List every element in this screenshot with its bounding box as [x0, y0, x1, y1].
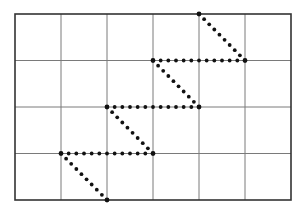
path-vertex-dot	[105, 198, 110, 203]
path-dot	[113, 105, 117, 109]
path-dot	[141, 141, 145, 145]
path-dot	[174, 59, 178, 63]
path-vertex-dot	[197, 12, 202, 17]
path-dot	[182, 90, 186, 94]
path-dot	[120, 152, 124, 156]
path-dot	[113, 152, 117, 156]
path-dot	[166, 59, 170, 63]
path-dot	[166, 105, 170, 109]
path-dot	[197, 59, 201, 63]
path-dot	[115, 115, 119, 119]
path-dot	[90, 152, 94, 156]
path-dot	[189, 105, 193, 109]
path-dot	[233, 48, 237, 52]
path-dot	[174, 105, 178, 109]
path-dot	[205, 59, 209, 63]
path-dot	[67, 152, 71, 156]
path-dot	[212, 28, 216, 32]
path-dot	[218, 33, 222, 37]
path-dot	[131, 131, 135, 135]
path-dot	[228, 59, 232, 63]
path-dot	[136, 136, 140, 140]
path-dot	[220, 59, 224, 63]
path-dot	[182, 105, 186, 109]
path-vertex-dot	[197, 105, 202, 110]
path-dot	[182, 59, 186, 63]
path-dot	[189, 59, 193, 63]
path-dot	[128, 152, 132, 156]
path-dot	[143, 152, 147, 156]
grid-diagram	[0, 0, 303, 209]
path-vertex-dot	[243, 58, 248, 63]
path-dot	[143, 105, 147, 109]
path-dot	[136, 152, 140, 156]
path-dot	[235, 59, 239, 63]
diagram-canvas	[0, 0, 303, 209]
path-dot	[159, 59, 163, 63]
path-dot	[74, 167, 78, 171]
path-dot	[202, 17, 206, 21]
path-dot	[69, 162, 73, 166]
path-dot	[80, 172, 84, 176]
path-dot	[64, 157, 68, 161]
path-dot	[207, 22, 211, 26]
path-dot	[146, 146, 150, 150]
path-vertex-dot	[151, 58, 156, 63]
path-dot	[110, 110, 114, 114]
path-dot	[85, 177, 89, 181]
path-dot	[74, 152, 78, 156]
path-dot	[82, 152, 86, 156]
path-dot	[97, 152, 101, 156]
path-dot	[177, 84, 181, 88]
path-dot	[136, 105, 140, 109]
path-dot	[161, 69, 165, 73]
path-dot	[120, 105, 124, 109]
path-dot	[100, 193, 104, 197]
path-dot	[187, 95, 191, 99]
path-dot	[172, 79, 176, 83]
path-dot	[128, 105, 132, 109]
path-dot	[156, 64, 160, 68]
path-dot	[105, 152, 109, 156]
path-dot	[228, 43, 232, 47]
path-dot	[212, 59, 216, 63]
path-dot	[151, 105, 155, 109]
path-vertex-dot	[59, 151, 64, 156]
path-dot	[95, 188, 99, 192]
path-dot	[120, 121, 124, 125]
path-dot	[126, 126, 130, 130]
path-dot	[238, 53, 242, 57]
path-dot	[166, 74, 170, 78]
path-vertex-dot	[105, 105, 110, 110]
path-vertex-dot	[151, 151, 156, 156]
path-dot	[192, 100, 196, 104]
path-dot	[159, 105, 163, 109]
path-dot	[223, 38, 227, 42]
path-dot	[90, 183, 94, 187]
